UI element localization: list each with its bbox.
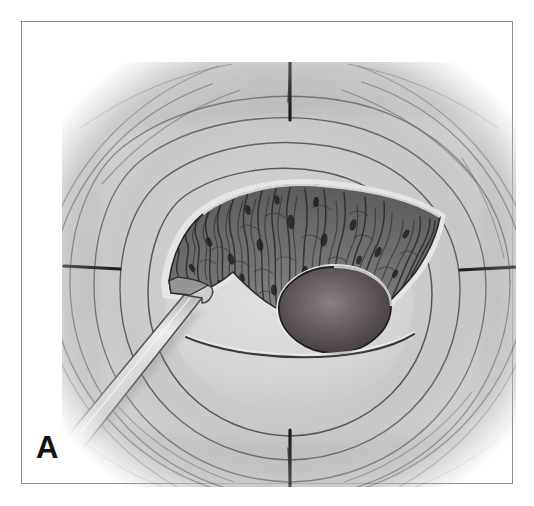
illustration-body [62, 62, 516, 487]
plate-frame [21, 21, 513, 484]
figure-panel: A [0, 0, 534, 506]
panel-letter: A [36, 432, 58, 463]
illustration-canvas [62, 62, 516, 487]
medical-illustration [62, 62, 516, 487]
